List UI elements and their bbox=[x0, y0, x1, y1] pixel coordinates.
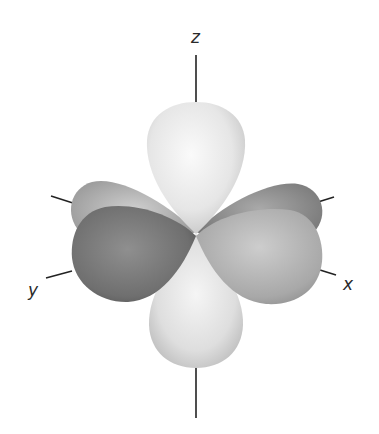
z-axis-label: z bbox=[191, 27, 200, 47]
x-axis-back bbox=[318, 197, 334, 202]
x-axis-label: x bbox=[343, 274, 353, 294]
orbital-diagram bbox=[0, 0, 379, 434]
y-axis-label: y bbox=[28, 280, 38, 300]
y-axis-front bbox=[46, 271, 72, 278]
x-axis-front bbox=[320, 270, 336, 275]
